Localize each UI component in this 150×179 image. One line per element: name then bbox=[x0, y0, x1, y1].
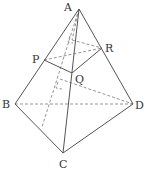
label-Q: Q bbox=[75, 73, 84, 86]
label-B: B bbox=[2, 98, 10, 111]
segment-PQ bbox=[44, 60, 72, 73]
label-C: C bbox=[59, 158, 67, 171]
edge-AB bbox=[15, 9, 79, 104]
edge-BC bbox=[15, 104, 63, 153]
tetrahedron-diagram: A B C D P Q R bbox=[0, 0, 150, 179]
label-A: A bbox=[63, 1, 73, 14]
segment-QR bbox=[72, 48, 102, 73]
edge-CD bbox=[63, 104, 133, 153]
label-R: R bbox=[105, 42, 114, 55]
edge-AD bbox=[79, 9, 133, 104]
label-P: P bbox=[32, 53, 40, 66]
segment-PR bbox=[44, 48, 102, 60]
label-D: D bbox=[135, 99, 144, 112]
right-angle-mark-lower bbox=[56, 82, 62, 89]
